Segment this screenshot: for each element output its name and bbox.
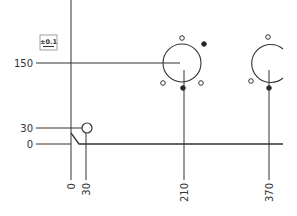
tolerance-text: ±0.1 [40, 38, 57, 46]
x-label-370: 370 [264, 183, 275, 202]
small-hole [82, 123, 92, 133]
bolt-hole-bottom-marker [181, 86, 186, 91]
bolt-circle-2-hole-bottom-left [249, 79, 254, 84]
bolt-circle-2-hole-top [266, 35, 271, 40]
bolt-hole-bottom-right [199, 81, 204, 86]
bolt-circle-2-arc [252, 45, 283, 83]
x-label-0: 0 [66, 183, 77, 189]
y-label-0: 0 [27, 139, 33, 150]
tolerance-box: ±0.1 [40, 35, 57, 50]
y-label-150: 150 [14, 58, 33, 69]
y-label-30: 30 [20, 123, 33, 134]
bolt-hole-top [180, 36, 185, 41]
bolt-hole-bottom-left [161, 81, 166, 86]
x-label-30: 30 [81, 183, 92, 196]
bolt-hole-top-right-marker [202, 42, 207, 47]
drawing-canvas: ±0.1 150 30 0 0 30 210 370 [0, 0, 297, 216]
part-outline-chamfer [71, 133, 283, 144]
x-label-210: 210 [179, 183, 190, 202]
